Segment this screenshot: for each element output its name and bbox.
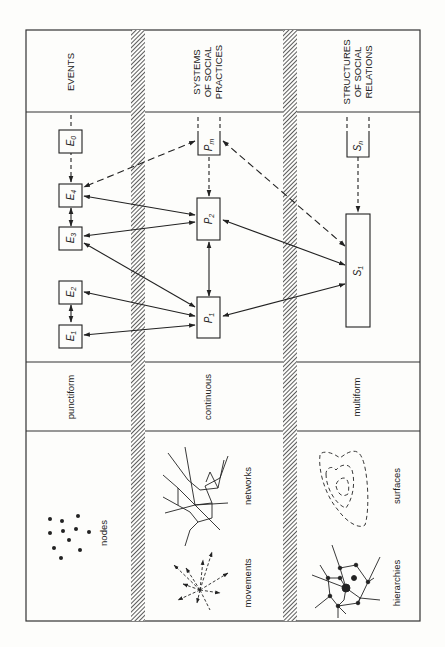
- header-systems-of-social-practices: SYSTEMS OF SOCIAL PRACTICES: [191, 45, 224, 99]
- surfaces-icon: [320, 451, 368, 526]
- hierarchies-icon: [312, 545, 380, 618]
- svg-text:OF SOCIAL: OF SOCIAL: [202, 47, 213, 98]
- svg-text:SYSTEMS: SYSTEMS: [191, 49, 202, 94]
- diagram-canvas: EVENTS SYSTEMS OF SOCIAL PRACTICES STRUC…: [0, 0, 445, 647]
- node-sn: Sn: [347, 135, 369, 157]
- node-e3: E3: [59, 227, 82, 250]
- surfaces-label: surfaces: [391, 468, 402, 504]
- node-e0: E0: [59, 130, 82, 153]
- header-events: EVENTS: [65, 53, 76, 91]
- form-multiform: multiform: [351, 377, 362, 416]
- header-structures-of-social-relations: STRUCTURES OF SOCIAL RELATIONS: [341, 40, 374, 105]
- svg-text:RELATIONS: RELATIONS: [363, 45, 374, 98]
- svg-text:OF SOCIAL: OF SOCIAL: [352, 47, 363, 98]
- networks-label: networks: [242, 467, 253, 505]
- node-e2: E2: [59, 281, 82, 304]
- movements-label: movements: [242, 558, 253, 607]
- networks-icon: [163, 447, 228, 546]
- svg-text:STRUCTURES: STRUCTURES: [341, 40, 352, 105]
- movements-icon: [174, 552, 228, 610]
- form-punctiform: punctiform: [65, 375, 76, 419]
- nodes-label: nodes: [98, 520, 109, 546]
- svg-text:PRACTICES: PRACTICES: [213, 45, 224, 99]
- node-p1: P1: [197, 297, 220, 338]
- node-e4: E4: [59, 184, 82, 207]
- hatch-band-1: [131, 30, 145, 621]
- node-e1: E1: [59, 325, 82, 348]
- hatch-band-2: [283, 30, 297, 621]
- form-continuous: continuous: [202, 374, 213, 420]
- svg-text:EVENTS: EVENTS: [65, 53, 76, 91]
- nodes-icon: [48, 514, 91, 560]
- node-pm: Pm: [198, 135, 220, 155]
- node-p2: P2: [197, 198, 220, 240]
- node-s1: S1: [346, 214, 370, 327]
- hierarchies-label: hierarchies: [391, 560, 402, 607]
